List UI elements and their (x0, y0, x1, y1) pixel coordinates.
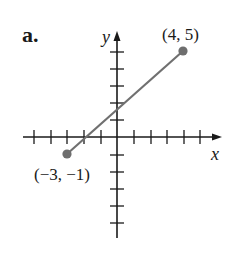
endpoint-a-marker (62, 149, 71, 158)
x-axis: x (23, 130, 222, 164)
x-axis-label: x (210, 144, 219, 164)
graph-figure: a. x (0, 0, 229, 253)
point-b-label: (4, 5) (162, 25, 199, 44)
x-axis-arrow-icon (212, 134, 222, 141)
figure-label: a. (22, 22, 39, 47)
endpoint-b-marker (178, 46, 187, 55)
y-axis-label: y (100, 27, 110, 47)
y-axis: y (100, 27, 124, 238)
line-segment (62, 46, 187, 158)
point-a-label: (−3, −1) (34, 165, 90, 184)
y-axis-arrow-icon (114, 31, 121, 41)
